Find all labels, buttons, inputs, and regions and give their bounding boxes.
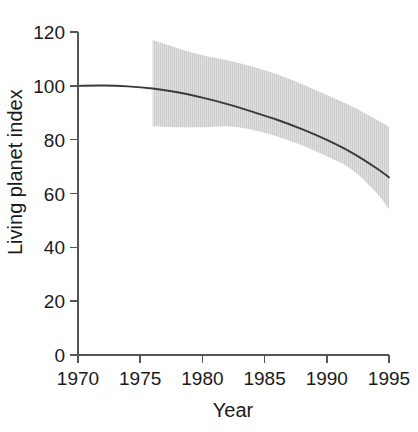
x-tick-label: 1990 <box>306 368 348 389</box>
x-tick-label: 1985 <box>243 368 285 389</box>
living-planet-index-chart: 020406080100120 197019751980198519901995… <box>0 0 418 432</box>
y-tick-label: 60 <box>44 184 65 205</box>
x-tick-label: 1970 <box>57 368 99 389</box>
x-tick-label: 1995 <box>368 368 410 389</box>
y-tick-label: 20 <box>44 291 65 312</box>
y-axis-ticks: 020406080100120 <box>33 22 78 366</box>
y-tick-label: 40 <box>44 237 65 258</box>
y-tick-label: 0 <box>54 345 65 366</box>
x-axis-title: Year <box>213 399 254 421</box>
x-axis-ticks: 197019751980198519901995 <box>57 355 410 389</box>
y-tick-label: 120 <box>33 22 65 43</box>
chart-figure: 020406080100120 197019751980198519901995… <box>0 0 418 432</box>
y-tick-label: 100 <box>33 76 65 97</box>
x-tick-label: 1980 <box>181 368 223 389</box>
y-tick-label: 80 <box>44 130 65 151</box>
x-tick-label: 1975 <box>119 368 161 389</box>
y-axis-title: Living planet index <box>4 89 26 255</box>
